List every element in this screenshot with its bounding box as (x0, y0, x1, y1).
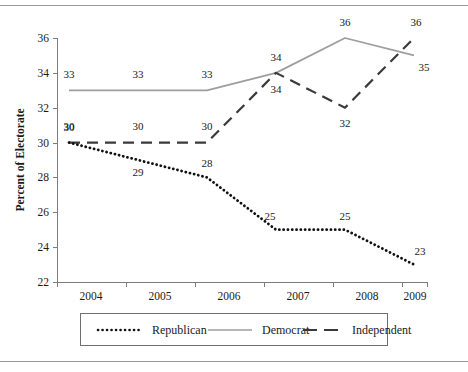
data-label-democrat-2006: 33 (202, 68, 214, 80)
data-label-democrat-2009: 35 (419, 61, 431, 73)
data-label-democrat-2008: 36 (340, 16, 352, 28)
data-label-democrat-2005: 33 (133, 68, 145, 80)
legend-label-republican: Republican (152, 323, 207, 337)
top-divider-rule (0, 5, 468, 6)
y-tick-label-30: 30 (38, 137, 50, 149)
data-label-republican-2004: 30 (64, 121, 76, 133)
x-tick-label-2006: 2006 (218, 290, 241, 302)
chart-legend: Republican Democrat Independent (81, 314, 412, 346)
data-labels-republican: 302928252523 (64, 121, 427, 257)
y-tick-label-24: 24 (38, 241, 50, 253)
series-group (69, 38, 414, 265)
data-label-republican-2005: 29 (133, 166, 145, 178)
series-line-democrat (69, 38, 414, 90)
data-label-democrat-2007: 34 (271, 51, 283, 63)
data-label-independent-2007: 34 (271, 83, 283, 95)
legend-label-democrat: Democrat (262, 323, 310, 337)
y-axis-title: Percent of Electorate (14, 108, 26, 211)
line-chart: 36 34 32 30 28 26 24 22 Percent of Elect… (0, 0, 468, 372)
data-labels-democrat: 333333343635 (64, 16, 431, 80)
figure-container: 36 34 32 30 28 26 24 22 Percent of Elect… (0, 0, 468, 372)
x-tick-label-2005: 2005 (149, 290, 172, 302)
y-tick-label-28: 28 (38, 171, 50, 183)
data-label-republican-2008: 25 (340, 210, 352, 222)
bottom-divider-rule (0, 361, 468, 362)
x-tick-marks (58, 283, 428, 288)
data-label-independent-2005: 30 (133, 120, 145, 132)
data-label-republican-2006: 28 (202, 157, 214, 169)
y-tick-label-36: 36 (38, 32, 50, 44)
data-label-republican-2009: 23 (415, 245, 427, 257)
data-labels-independent: 303030343236 (64, 16, 423, 132)
y-tick-label-22: 22 (38, 276, 50, 288)
x-tick-label-2009: 2009 (404, 290, 427, 302)
legend-label-independent: Independent (352, 323, 412, 337)
x-tick-label-2004: 2004 (80, 290, 103, 302)
y-tick-label-26: 26 (38, 206, 50, 218)
y-tick-marks (53, 39, 58, 283)
x-tick-label-2007: 2007 (287, 290, 310, 302)
data-label-independent-2009: 36 (411, 16, 423, 28)
data-label-republican-2007: 25 (265, 210, 277, 222)
y-tick-label-34: 34 (38, 67, 50, 79)
data-label-independent-2006: 30 (202, 120, 214, 132)
series-line-republican (69, 143, 414, 265)
data-label-democrat-2004: 33 (64, 68, 76, 80)
y-tick-label-32: 32 (38, 102, 50, 114)
x-tick-label-2008: 2008 (356, 290, 379, 302)
data-label-independent-2008: 32 (340, 117, 351, 129)
